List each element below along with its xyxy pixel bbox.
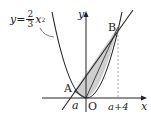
y-axis-label: y <box>78 9 84 20</box>
tick-a-plus-4-label: a+4 <box>108 102 129 112</box>
equation-label: y= 2 3 x 2 <box>10 10 45 29</box>
tick-a-label: a <box>72 100 79 111</box>
fraction-denominator: 3 <box>27 20 33 29</box>
origin-label: O <box>88 101 97 112</box>
line-AB <box>62 10 133 110</box>
point-B-label: B <box>108 22 116 33</box>
point-A-label: A <box>64 83 72 94</box>
equation-fraction: 2 3 <box>26 10 34 29</box>
equation-leader <box>40 28 54 37</box>
y-axis-arrow <box>84 11 89 17</box>
equation-exponent: 2 <box>41 17 45 23</box>
parabola-diagram: y= 2 3 x 2 y x O A B a a+4 <box>0 0 151 116</box>
x-axis-label: x <box>141 101 147 112</box>
segment-OB <box>86 27 118 98</box>
equation-lhs: y= <box>10 14 25 25</box>
